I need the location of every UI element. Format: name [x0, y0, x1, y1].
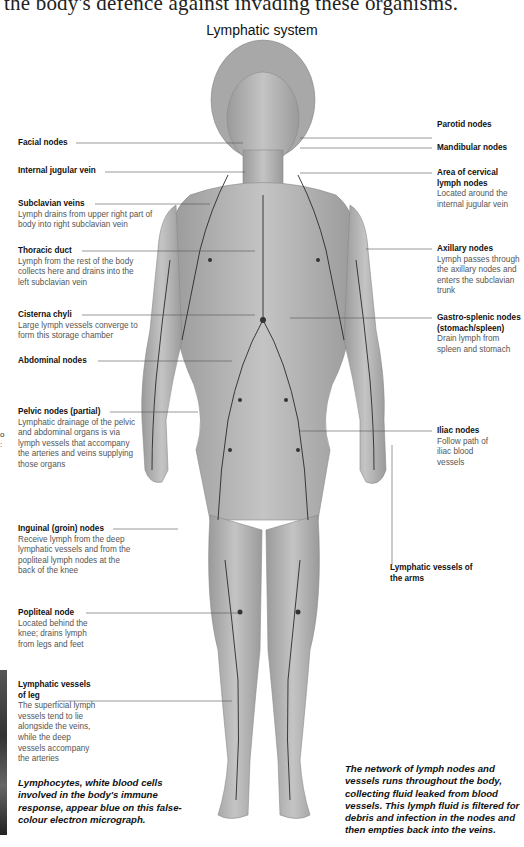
- label-internal-jugular-vein: Internal jugular vein: [18, 166, 96, 177]
- label-facial-nodes: Facial nodes: [18, 138, 68, 149]
- label-subclavian-veins: Subclavian veinsLymph drains from upper …: [18, 199, 168, 231]
- label-axillary-nodes: Axillary nodesLymph passes through the a…: [437, 244, 523, 297]
- label-cisterna-chyli: Cisterna chyliLarge lymph vessels conver…: [18, 310, 143, 342]
- label-thoracic-duct: Thoracic ductLymph from the rest of the …: [18, 246, 138, 288]
- label-lymphatic-vessels-arms: Lymphatic vessels of the arms: [390, 563, 480, 584]
- label-inguinal-nodes: Inguinal (groin) nodesReceive lymph from…: [18, 524, 138, 577]
- caption-lymph-network: The network of lymph nodes and vessels r…: [345, 763, 523, 837]
- label-mandibular-nodes: Mandibular nodes: [437, 143, 507, 154]
- label-iliac-nodes: Iliac nodesFollow path of iliac blood ve…: [437, 426, 497, 468]
- label-abdominal-nodes: Abdominal nodes: [18, 356, 87, 367]
- caption-lymphocytes: Lymphocytes, white blood cells involved …: [18, 777, 186, 826]
- edge-fragment: :: [0, 440, 2, 449]
- label-pelvic-nodes: Pelvic nodes (partial)Lymphatic drainage…: [18, 407, 138, 471]
- label-popliteal-node: Popliteal nodeLocated behind the knee; d…: [18, 608, 98, 650]
- micrograph-photo: [0, 670, 7, 835]
- edge-fragment: o: [0, 430, 4, 439]
- label-lymphatic-vessels-leg: Lymphatic vessels of legThe superficial …: [18, 680, 100, 765]
- label-gastro-splenic-nodes: Gastro-splenic nodes (stomach/spleen)Dra…: [437, 313, 523, 355]
- label-parotid-nodes: Parotid nodes: [437, 120, 492, 131]
- label-cervical-lymph-nodes: Area of cervical lymph nodesLocated arou…: [437, 168, 523, 210]
